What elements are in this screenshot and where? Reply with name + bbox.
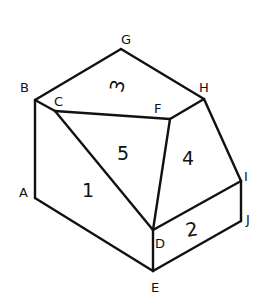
face-label-5: 5 xyxy=(117,142,129,164)
edge-cf xyxy=(55,111,170,119)
edge-cd xyxy=(55,111,153,230)
edge-gh xyxy=(121,49,204,99)
edges-group xyxy=(35,49,241,271)
face-label-3: 3 xyxy=(105,77,129,94)
vertex-label-b: B xyxy=(20,80,29,95)
face-label-2: 2 xyxy=(184,217,200,241)
edge-fh xyxy=(170,99,204,119)
polyhedron-diagram: ABCDEFGHIJ 12345 xyxy=(0,0,274,307)
vertex-label-a: A xyxy=(19,185,28,200)
edge-di xyxy=(153,181,241,230)
edge-bc xyxy=(35,100,55,111)
vertex-label-d: D xyxy=(155,236,165,251)
edge-fd xyxy=(153,119,170,230)
face-label-4: 4 xyxy=(182,147,194,169)
vertex-label-f: F xyxy=(154,101,161,116)
vertex-label-c: C xyxy=(54,94,63,109)
edge-hi xyxy=(204,99,241,181)
vertex-label-i: I xyxy=(244,169,248,184)
vertex-label-j: J xyxy=(245,212,250,227)
vertex-labels-group: ABCDEFGHIJ xyxy=(19,32,250,295)
vertex-label-g: G xyxy=(121,32,131,47)
vertex-label-e: E xyxy=(151,280,159,295)
edge-bg xyxy=(35,49,121,100)
face-label-1: 1 xyxy=(82,179,94,201)
vertex-label-h: H xyxy=(199,80,209,95)
